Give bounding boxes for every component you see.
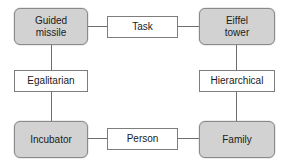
node-incubator-label: Incubator [30,134,72,146]
node-guided-missile-line2: missile [35,27,67,39]
node-eiffel-tower-line2: tower [225,27,249,39]
diagram-canvas: Guided missile Eiffel tower Incubator Fa… [0,0,290,168]
node-task: Task [107,16,178,38]
node-egalitarian: Egalitarian [14,70,88,92]
node-family: Family [199,121,275,158]
connector-incubator-person [88,138,107,139]
connector-task-eiffel-tower [178,26,199,27]
node-hierarchical-label: Hierarchical [211,75,264,87]
node-task-label: Task [132,21,153,33]
connector-hierarchical-family [236,92,237,121]
node-incubator: Incubator [14,121,88,158]
node-person: Person [107,128,178,150]
node-family-label: Family [222,134,251,146]
node-hierarchical: Hierarchical [199,70,275,92]
node-eiffel-tower-line1: Eiffel [225,15,249,27]
node-eiffel-tower: Eiffel tower [199,8,275,45]
node-guided-missile: Guided missile [14,8,88,45]
connector-egalitarian-incubator [51,92,52,121]
connector-guided-missile-task [88,26,107,27]
node-person-label: Person [127,133,159,145]
connector-person-family [178,138,199,139]
connector-eiffel-tower-hierarchical [236,45,237,70]
node-guided-missile-line1: Guided [35,15,67,27]
connector-guided-missile-egalitarian [51,45,52,70]
node-egalitarian-label: Egalitarian [27,75,74,87]
